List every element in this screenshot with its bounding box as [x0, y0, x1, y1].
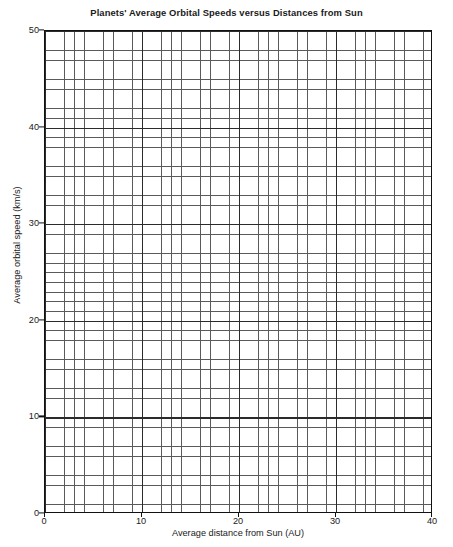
x-axis-tick-mark-20	[238, 513, 239, 517]
y-axis-tick-label-50: 50	[8, 25, 39, 35]
x-axis-tick-mark-0	[44, 513, 45, 517]
x-axis-tick-label-20: 20	[223, 516, 253, 526]
x-axis-tick-label-10: 10	[126, 516, 156, 526]
y-axis-title: Average orbital speed (km/s)	[12, 135, 22, 355]
y-axis-tick-label-10: 10	[8, 411, 39, 421]
x-axis-tick-mark-10	[141, 513, 142, 517]
x-axis-tick-label-30: 30	[320, 516, 350, 526]
major-gridlines	[45, 31, 431, 512]
x-axis-tick-label-40: 40	[417, 516, 447, 526]
x-axis-title: Average distance from Sun (AU)	[44, 528, 432, 538]
x-axis-tick-label-0: 0	[29, 516, 59, 526]
plot-area[interactable]	[44, 30, 432, 513]
chart-figure: Planets' Average Orbital Speeds versus D…	[0, 0, 453, 547]
x-axis-tick-mark-30	[335, 513, 336, 517]
y-axis-tick-label-40: 40	[8, 122, 39, 132]
chart-title: Planets' Average Orbital Speeds versus D…	[0, 7, 453, 18]
x-axis-tick-mark-40	[431, 513, 432, 517]
